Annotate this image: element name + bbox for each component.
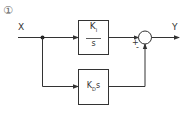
summing-junction bbox=[139, 31, 152, 44]
derivative-gain-label: KDs bbox=[78, 82, 109, 92]
diagram-index-label: ① bbox=[3, 5, 13, 16]
integral-denominator-label: s bbox=[78, 40, 109, 48]
integral-gain-label: KI bbox=[78, 22, 109, 33]
integral-gain-subscript: I bbox=[96, 27, 97, 33]
minus-sign: - bbox=[136, 44, 139, 52]
block-diagram bbox=[0, 0, 181, 115]
branch-line bbox=[43, 38, 79, 87]
input-label: X bbox=[18, 23, 24, 32]
derivative-s-label: s bbox=[96, 81, 100, 90]
lower-output-line bbox=[109, 44, 146, 87]
output-label: Y bbox=[172, 23, 178, 32]
